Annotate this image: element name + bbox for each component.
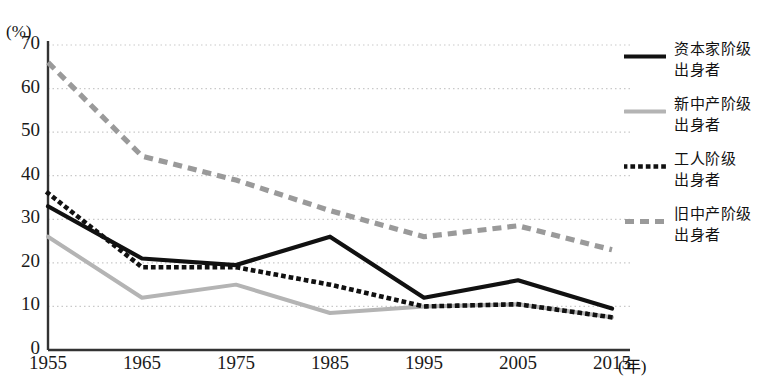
y-tick-label-70: 70 — [2, 32, 40, 54]
legend-swatch-dotted-black-icon — [624, 157, 666, 164]
legend-label-line1: 资本家阶级 — [674, 38, 764, 59]
x-tick-label-2015: 2015 — [577, 352, 647, 374]
chart-page: (%) (年) 010203040506070 1955196519751985… — [0, 0, 764, 382]
legend-label-line1: 旧中产阶级 — [674, 203, 764, 224]
x-tick-label-2005: 2005 — [483, 352, 553, 374]
y-tick-label-10: 10 — [2, 293, 40, 315]
legend-label-line2: 出身者 — [674, 169, 764, 190]
y-tick-label-30: 30 — [2, 206, 40, 228]
legend-item-1[interactable]: 资本家阶级出身者 — [624, 38, 764, 84]
y-tick-label-40: 40 — [2, 163, 40, 185]
legend-label-line2: 出身者 — [674, 114, 764, 135]
legend-label-line1: 新中产阶级 — [674, 93, 764, 114]
data-series-group — [48, 62, 612, 317]
legend-label-line2: 出身者 — [674, 59, 764, 80]
legend-label-line2: 出身者 — [674, 224, 764, 245]
y-tick-label-20: 20 — [2, 250, 40, 272]
y-tick-label-50: 50 — [2, 119, 40, 141]
legend-item-2[interactable]: 新中产阶级出身者 — [624, 93, 764, 139]
legend-item-4[interactable]: 旧中产阶级出身者 — [624, 203, 764, 249]
legend-label-line1: 工人阶级 — [674, 148, 764, 169]
legend-swatch-dashed-gray-icon — [624, 212, 666, 219]
legend-label-3: 工人阶级出身者 — [674, 148, 764, 190]
legend-label-2: 新中产阶级出身者 — [674, 93, 764, 135]
gridlines-group — [48, 45, 630, 306]
legend-item-3[interactable]: 工人阶级出身者 — [624, 148, 764, 194]
y-tick-label-60: 60 — [2, 76, 40, 98]
axis-lines-group — [48, 41, 630, 350]
legend-label-1: 资本家阶级出身者 — [674, 38, 764, 80]
x-tick-label-1965: 1965 — [107, 352, 177, 374]
x-tick-label-1975: 1975 — [201, 352, 271, 374]
chart-legend: 资本家阶级出身者新中产阶级出身者工人阶级出身者旧中产阶级出身者 — [624, 38, 764, 258]
x-tick-label-1985: 1985 — [295, 352, 365, 374]
series-line-dashed-gray — [48, 62, 612, 249]
legend-swatch-solid-gray-icon — [624, 102, 666, 109]
legend-swatch-solid-black-icon — [624, 47, 666, 54]
legend-label-4: 旧中产阶级出身者 — [674, 203, 764, 245]
x-tick-label-1995: 1995 — [389, 352, 459, 374]
x-tick-label-1955: 1955 — [13, 352, 83, 374]
